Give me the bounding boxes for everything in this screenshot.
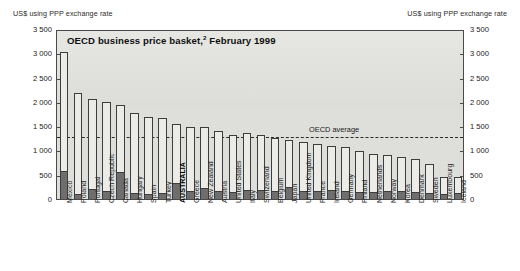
x-axis-label-luxembourg: Luxembourg bbox=[446, 164, 453, 203]
y-tick-mark-left bbox=[56, 79, 60, 80]
y-tick-label-left: 2 500 bbox=[33, 75, 52, 83]
y-tick-label-left: 1 000 bbox=[33, 147, 52, 155]
x-axis-label-iceland: Iceland bbox=[460, 180, 467, 203]
x-axis-label-portugal: Portugal bbox=[94, 177, 101, 203]
x-axis-label-belgium: Belgium bbox=[277, 177, 284, 203]
x-axis-label-united-kingdom: United Kingdom bbox=[305, 152, 312, 203]
x-axis-label-germany: Germany bbox=[347, 174, 354, 203]
y-tick-label-left: 500 bbox=[39, 172, 52, 180]
x-axis-label-new-zealand: New Zealand bbox=[207, 161, 214, 203]
y-tick-label-left: 3 000 bbox=[33, 50, 52, 58]
x-axis-label-greece: Greece bbox=[193, 180, 200, 203]
y-tick-label-left: 1 500 bbox=[33, 123, 52, 131]
x-axis-label-austria: Austria bbox=[221, 181, 228, 203]
x-axis-label-australia: AUSTRALIA bbox=[179, 162, 186, 203]
y-tick-label-left: 2 000 bbox=[33, 99, 52, 107]
y-tick-label-right: 1 500 bbox=[470, 123, 489, 131]
x-axis-label-spain: Spain bbox=[150, 185, 157, 203]
y-tick-mark-right bbox=[460, 127, 464, 128]
y-tick-label-right: 0 bbox=[470, 196, 474, 204]
x-axis-label-norway: Norway bbox=[390, 179, 397, 203]
y-tick-label-left: 0 bbox=[48, 196, 52, 204]
x-axis-label-france: France bbox=[319, 181, 326, 203]
x-axis-label-denmark: Denmark bbox=[418, 174, 425, 203]
y-tick-mark-right bbox=[460, 54, 464, 55]
y-tick-label-right: 2 500 bbox=[470, 75, 489, 83]
x-axis-label-united-states: United States bbox=[235, 160, 242, 203]
x-axis-label-italy: Italy bbox=[249, 190, 256, 203]
y-tick-mark-left bbox=[56, 54, 60, 55]
y-tick-label-right: 3 000 bbox=[470, 50, 489, 58]
x-axis-label-poland: Poland bbox=[80, 181, 87, 203]
x-axis-label-turkey: Turkey bbox=[165, 182, 172, 203]
y-tick-mark-right bbox=[460, 176, 464, 177]
x-axis-label-korea: Korea bbox=[404, 184, 411, 203]
bar-mexico bbox=[60, 52, 69, 199]
x-axis-label-hungary: Hungary bbox=[136, 176, 143, 203]
y-tick-label-left: 3 500 bbox=[33, 26, 52, 34]
chart-figure: US$ using PPP exchange rate US$ using PP… bbox=[0, 0, 520, 271]
x-axis-label-ireland: Ireland bbox=[333, 181, 340, 203]
x-axis-label-finland: Finland bbox=[361, 180, 368, 203]
y-tick-mark-left bbox=[56, 176, 60, 177]
bars-layer bbox=[57, 31, 463, 199]
y-tick-mark-left bbox=[56, 151, 60, 152]
x-axis-label-switzerland: Switzerland bbox=[263, 166, 270, 203]
x-axis-label-japan: Japan bbox=[291, 184, 298, 203]
plot-area: OECD business price basket,2 February 19… bbox=[56, 30, 464, 200]
right-axis-unit-caption: US$ using PPP exchange rate bbox=[407, 9, 507, 18]
y-tick-label-right: 1 000 bbox=[470, 147, 489, 155]
y-tick-mark-right bbox=[460, 103, 464, 104]
x-axis-label-mexico: Mexico bbox=[66, 181, 73, 203]
y-tick-label-right: 3 500 bbox=[470, 26, 489, 34]
y-tick-label-right: 2 000 bbox=[470, 99, 489, 107]
x-axis-label-sweden: Sweden bbox=[432, 177, 439, 203]
x-axis-labels: MexicoPolandPortugalCzech RepublicCanada… bbox=[0, 201, 520, 271]
y-tick-mark-right bbox=[460, 151, 464, 152]
x-axis-label-czech-republic: Czech Republic bbox=[108, 153, 115, 203]
y-tick-mark-left bbox=[56, 127, 60, 128]
y-tick-mark-right bbox=[460, 79, 464, 80]
y-tick-label-right: 500 bbox=[470, 172, 483, 180]
x-axis-label-netherlands: Netherlands bbox=[376, 165, 383, 203]
left-axis-unit-caption: US$ using PPP exchange rate bbox=[13, 9, 113, 18]
x-axis-label-canada: Canada bbox=[122, 178, 129, 203]
y-tick-mark-left bbox=[56, 103, 60, 104]
